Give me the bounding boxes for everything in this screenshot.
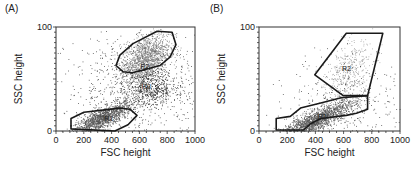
data-point [127, 76, 128, 77]
data-point [335, 108, 336, 109]
data-point [119, 71, 120, 72]
data-point [324, 84, 325, 85]
data-point [126, 68, 127, 69]
data-point [144, 102, 145, 103]
data-point [127, 70, 128, 71]
data-point [191, 76, 192, 77]
data-point [151, 60, 152, 61]
data-point [111, 126, 112, 127]
data-point [329, 121, 330, 122]
data-point [141, 43, 142, 44]
data-point [145, 95, 146, 96]
data-point [93, 117, 94, 118]
data-point [152, 56, 153, 57]
data-point [175, 87, 176, 88]
data-point [358, 81, 359, 82]
data-point [145, 75, 146, 76]
data-point [89, 90, 90, 91]
data-point [297, 122, 298, 123]
data-point [133, 79, 134, 80]
data-point [364, 113, 365, 114]
data-point [82, 128, 83, 129]
data-point [174, 65, 175, 66]
data-point [150, 56, 151, 57]
scatter-points [260, 28, 401, 131]
data-point [331, 108, 332, 109]
data-point [327, 116, 328, 117]
data-point [127, 92, 128, 93]
data-point [329, 122, 330, 123]
gate-label: R2 [140, 63, 149, 70]
data-point [147, 107, 148, 108]
data-point [88, 118, 89, 119]
data-point [367, 125, 368, 126]
data-point [358, 74, 359, 75]
data-point [124, 60, 125, 61]
data-point [151, 105, 152, 106]
data-point [346, 108, 347, 109]
data-point [163, 93, 164, 94]
data-point [85, 128, 86, 129]
data-point [142, 76, 143, 77]
data-point [103, 124, 104, 125]
data-point [144, 130, 145, 131]
data-point [180, 93, 181, 94]
data-point [146, 76, 147, 77]
data-point [94, 120, 95, 121]
data-point [121, 112, 122, 113]
data-point [148, 76, 149, 77]
data-point [313, 125, 314, 126]
data-point [119, 124, 120, 125]
data-point [352, 68, 353, 69]
data-point [315, 123, 316, 124]
data-point [158, 77, 159, 78]
data-point [185, 74, 186, 75]
data-point [130, 99, 131, 100]
data-point [150, 94, 151, 95]
data-point [161, 87, 162, 88]
data-point [176, 95, 177, 96]
data-point [152, 74, 153, 75]
data-point [307, 121, 308, 122]
data-point [308, 116, 309, 117]
data-point [343, 112, 344, 113]
data-point [93, 123, 94, 124]
data-point [138, 82, 139, 83]
data-point [341, 81, 342, 82]
data-point [314, 115, 315, 116]
data-point [361, 91, 362, 92]
data-point [143, 92, 144, 93]
data-point [141, 74, 142, 75]
data-point [334, 119, 335, 120]
data-point [102, 124, 103, 125]
data-point [310, 116, 311, 117]
data-point [109, 108, 110, 109]
data-point [339, 76, 340, 77]
data-point [183, 56, 184, 57]
data-point [139, 58, 140, 59]
data-point [116, 74, 117, 75]
data-point [148, 71, 149, 72]
data-point [321, 126, 322, 127]
data-point [170, 92, 171, 93]
data-point [96, 123, 97, 124]
data-point [334, 106, 335, 107]
data-point [112, 90, 113, 91]
data-point [121, 68, 122, 69]
data-point [340, 70, 341, 71]
data-point [107, 103, 108, 104]
data-point [160, 42, 161, 43]
data-point [94, 100, 95, 101]
data-point [166, 54, 167, 55]
data-point [95, 124, 96, 125]
data-point [159, 78, 160, 79]
data-point [315, 113, 316, 114]
data-point [144, 77, 145, 78]
data-point [163, 51, 164, 52]
data-point [134, 108, 135, 109]
data-point [187, 61, 188, 62]
data-point [78, 103, 79, 104]
data-point [139, 66, 140, 67]
data-point [137, 108, 138, 109]
data-point [136, 45, 137, 46]
